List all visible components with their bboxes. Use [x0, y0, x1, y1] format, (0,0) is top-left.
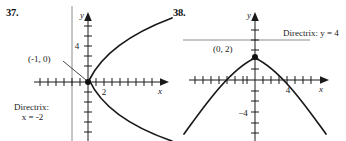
parabola-curve-37 [89, 18, 172, 141]
leader-line-37 [63, 61, 86, 80]
point-label-38: (0, 2) [213, 44, 233, 54]
x-tick-label-37-2: 2 [102, 87, 107, 97]
point-marker-37 [85, 79, 91, 85]
problem-38: 38. [173, 0, 346, 141]
figure-page: 37. [0, 0, 346, 141]
x-axis-label-38: x [318, 84, 323, 94]
y-axis-arrow-38 [251, 12, 259, 21]
point-label-37: (-1, 0) [28, 54, 51, 64]
problem-37: 37. [0, 0, 173, 141]
directrix-label-37-line2: x = -2 [14, 112, 49, 122]
point-marker-38 [252, 54, 258, 60]
x-tick-label-38-4: 4 [286, 85, 291, 95]
y-tick-label-38-neg4: −4 [238, 108, 248, 118]
x-axis-arrow-38 [320, 76, 329, 84]
graph-38: y x 4 −4 [173, 0, 346, 141]
y-tick-label-37-4: 4 [75, 41, 80, 51]
y-axis-label-38: y [246, 10, 251, 20]
x-axis-arrow-37 [160, 78, 169, 86]
x-axis-label-37: x [157, 86, 162, 96]
graph-38-svg: y x 4 −4 [173, 0, 346, 141]
y-axis-arrow-37 [84, 12, 92, 21]
y-axis-label-37: y [79, 10, 84, 20]
directrix-label-37-line1: Directrix: [14, 102, 49, 112]
directrix-label-38: Directrix: y = 4 [283, 28, 339, 38]
directrix-label-37: Directrix: x = -2 [14, 102, 49, 123]
